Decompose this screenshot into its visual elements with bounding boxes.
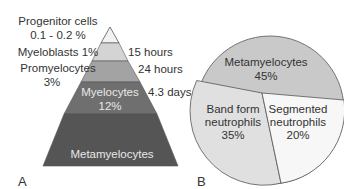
pie-label-band-form-1: Band form	[206, 103, 259, 115]
pie-label-segmented-2: neutrophils	[270, 116, 327, 128]
pie-value-band-form: 35%	[221, 129, 244, 141]
pie-label-band-form-2: neutrophils	[205, 116, 262, 128]
pie-label-metamyelocytes: Metamyelocytes	[224, 56, 307, 68]
time-myelocytes: 4.3 days	[148, 86, 192, 98]
panel-a-letter: A	[18, 174, 27, 189]
progenitor-label: Progenitor cells	[18, 15, 98, 27]
time-promyelocytes: 24 hours	[138, 63, 183, 75]
pyramid-level-progenitor	[101, 27, 119, 43]
progenitor-percent: 0.1 - 0.2 %	[30, 29, 86, 41]
metamyelocytes-pyramid-label: Metamyelocytes	[70, 148, 153, 160]
promyelocytes-label: Promyelocytes	[20, 62, 96, 74]
myelocytes-percent: 12%	[98, 100, 121, 112]
pie-value-metamyelocytes: 45%	[254, 70, 277, 82]
myelocytes-label: Myelocytes	[81, 86, 139, 98]
promyelocytes-percent: 3%	[44, 76, 61, 88]
myeloblasts-label: Myeloblasts 1%	[18, 46, 99, 58]
time-myeloblasts: 15 hours	[128, 46, 173, 58]
figure: Progenitor cells 0.1 - 0.2 % Myeloblasts…	[0, 0, 344, 189]
panel-b-letter: B	[197, 174, 206, 189]
pie-label-segmented-1: Segmented	[269, 103, 328, 115]
pie-value-segmented: 20%	[286, 129, 309, 141]
